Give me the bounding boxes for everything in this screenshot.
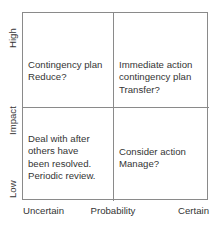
quadrant-low-impact-certain: Consider action Manage?	[119, 133, 205, 183]
y-axis-low-label: Low	[8, 180, 18, 198]
quadrant-high-impact-certain-text: Immediate action contingency plan Transf…	[119, 59, 205, 97]
quadrant-high-impact-uncertain: Contingency plan Reduce?	[28, 46, 110, 96]
x-axis-title: Probability	[91, 205, 136, 217]
x-axis-uncertain-label: Uncertain	[23, 205, 64, 217]
risk-matrix-figure: Contingency plan Reduce? Immediate actio…	[0, 0, 220, 228]
quadrant-low-impact-uncertain: Deal with after others have been resolve…	[28, 120, 110, 196]
quadrant-low-impact-certain-text: Consider action Manage?	[119, 146, 205, 171]
quadrant-high-impact-uncertain-text: Contingency plan Reduce?	[28, 59, 110, 84]
y-axis-title: Impact	[8, 106, 18, 135]
quadrant-low-impact-uncertain-text: Deal with after others have been resolve…	[28, 133, 110, 183]
x-axis-certain-label: Certain	[178, 205, 209, 217]
quadrant-high-impact-certain: Immediate action contingency plan Transf…	[119, 46, 205, 109]
y-axis-high-label: High	[8, 28, 18, 48]
